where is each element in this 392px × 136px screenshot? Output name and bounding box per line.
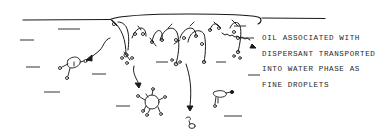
water-surface-line-right	[262, 18, 325, 19]
droplet-with-surfactant-left	[59, 57, 88, 80]
arrow-head-center	[135, 83, 141, 88]
forming-droplet-clusters	[121, 50, 242, 65]
arrow-curved-center-right-down	[186, 64, 191, 106]
water-surface-line	[23, 20, 110, 21]
annotation-line-4: FINE DROPLETS	[262, 82, 329, 90]
droplet-with-surfactant-right	[213, 90, 233, 107]
arrow-curved-center-down	[133, 66, 138, 82]
oil-slick-outline	[110, 14, 261, 24]
arrow-wavy-right-down	[222, 33, 250, 40]
annotation-line-3: INTO WATER PHASE AS	[262, 66, 360, 74]
annotation-line-1: OIL ASSOCIATED WITH	[262, 35, 360, 43]
arrow-curved-left-down	[90, 38, 110, 58]
dispersant-heads-surface	[111, 20, 240, 46]
arrow-head-wavy	[250, 44, 256, 48]
water-dashes	[20, 26, 260, 116]
arrow-head-center-right	[187, 106, 193, 111]
annotation-line-2: DISPERSANT TRANSPORTED	[262, 51, 375, 59]
droplet-with-surfactant-center-large	[137, 88, 167, 117]
droplet-small-center-bottom	[186, 117, 195, 128]
